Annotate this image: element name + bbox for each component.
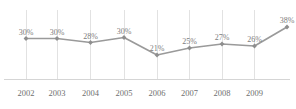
x-axis-tick-label: 2002	[18, 88, 35, 98]
x-axis-tick-label: 2009	[246, 88, 263, 98]
x-axis-tick-labels: 20022003200420052006200720082009	[0, 0, 296, 109]
x-axis-tick-label: 2007	[181, 88, 198, 98]
line-chart: 30%30%28%30%21%25%27%26%38% 200220032004…	[0, 0, 296, 109]
x-axis-tick-label: 2008	[214, 88, 231, 98]
x-axis-tick-label: 2005	[116, 88, 133, 98]
x-axis-tick-label: 2006	[149, 88, 166, 98]
x-axis-tick-label: 2003	[49, 88, 66, 98]
x-axis-tick-label: 2004	[82, 88, 99, 98]
